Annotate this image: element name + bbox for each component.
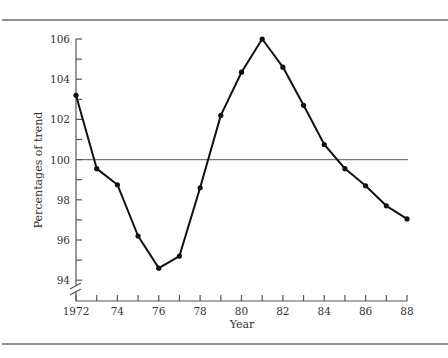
x-tick-label: 82	[276, 305, 289, 317]
data-point	[280, 65, 285, 70]
line-chart: 949698100102104106 19727476788082848688 …	[0, 0, 448, 358]
x-tick-label: 78	[193, 305, 206, 317]
data-points	[73, 36, 409, 270]
x-tick-label: 80	[235, 305, 248, 317]
data-point	[94, 166, 99, 171]
data-point	[301, 103, 306, 108]
data-point	[218, 113, 223, 118]
y-tick-label: 94	[57, 274, 71, 286]
y-tick-label: 98	[57, 194, 70, 206]
x-tick-label: 84	[318, 305, 332, 317]
y-tick-label: 100	[50, 154, 70, 166]
data-point	[135, 233, 140, 238]
data-point	[404, 216, 409, 221]
data-point	[177, 253, 182, 258]
x-tick-label: 88	[400, 305, 413, 317]
x-tick-label: 74	[111, 305, 125, 317]
x-axis-label: Year	[229, 318, 255, 331]
x-axis-ticks: 19727476788082848688	[63, 295, 414, 317]
y-tick-label: 104	[50, 73, 70, 85]
data-point	[363, 183, 368, 188]
x-tick-label: 1972	[63, 305, 90, 317]
data-point	[260, 36, 265, 41]
x-tick-label: 86	[359, 305, 373, 317]
x-tick-label: 76	[152, 305, 166, 317]
y-tick-label: 106	[50, 33, 70, 45]
data-point	[73, 93, 78, 98]
data-point	[239, 70, 244, 75]
y-tick-label: 102	[50, 113, 70, 125]
y-tick-label: 96	[57, 234, 71, 246]
data-point	[198, 185, 203, 190]
data-point	[342, 166, 347, 171]
data-point	[322, 142, 327, 147]
data-point	[115, 182, 120, 187]
y-axis-ticks: 949698100102104106	[50, 33, 82, 286]
data-point	[384, 203, 389, 208]
y-axis-label: Percentages of trend	[32, 112, 45, 229]
data-point	[156, 266, 161, 271]
